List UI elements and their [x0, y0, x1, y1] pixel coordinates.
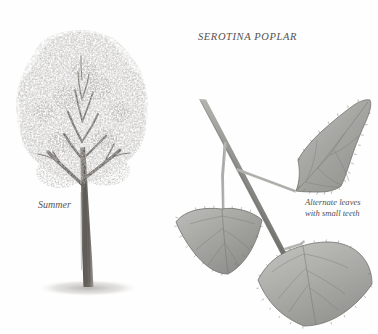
- tree-canopy: [16, 30, 148, 188]
- full-tree-habit: [16, 30, 148, 297]
- leaf-upper-right: [296, 99, 371, 194]
- season-label: Summer: [38, 199, 71, 210]
- leaf-lower-right: [256, 239, 372, 328]
- illustration-canvas: [0, 0, 378, 334]
- leaf-caption-line-1: Alternate leaves: [305, 197, 361, 208]
- leaf-lower-left: [174, 206, 262, 276]
- petiole-lower-left: [221, 142, 227, 210]
- leaf-caption: Alternate leaves with small teeth: [305, 197, 361, 218]
- botanical-plate: SEROTINA POPLAR Summer Alternate leaves …: [0, 0, 378, 334]
- page-title: SEROTINA POPLAR: [198, 31, 297, 42]
- leaf-caption-line-2: with small teeth: [305, 208, 361, 219]
